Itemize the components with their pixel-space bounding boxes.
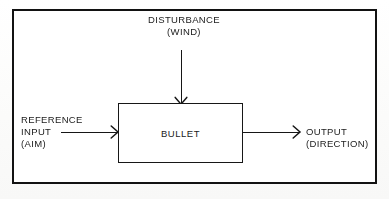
reference-input-label-line1: REFERENCE <box>21 114 83 126</box>
disturbance-label-line2: (WIND) <box>146 26 222 38</box>
disturbance-label: DISTURBANCE (WIND) <box>146 14 222 38</box>
process-block-label: BULLET <box>161 128 200 139</box>
reference-input-label-line3: (AIM) <box>21 138 83 150</box>
disturbance-label-line1: DISTURBANCE <box>146 14 222 26</box>
process-block-bullet: BULLET <box>118 103 243 163</box>
arrow-right-icon <box>288 123 304 141</box>
diagram-canvas: DISTURBANCE (WIND) REFERENCE INPUT (AIM)… <box>0 0 389 199</box>
output-label-line1: OUTPUT <box>306 126 368 138</box>
output-label-line2: (DIRECTION) <box>306 138 368 150</box>
output-label: OUTPUT (DIRECTION) <box>306 126 368 150</box>
